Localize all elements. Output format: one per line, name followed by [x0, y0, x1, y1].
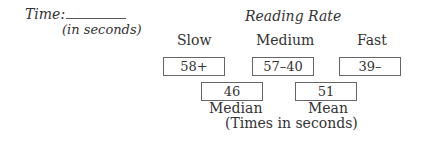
median-box: 46	[201, 82, 263, 101]
time-unit-note: (in seconds)	[62, 22, 142, 37]
fast-label: Fast	[357, 32, 387, 48]
time-label: Time:	[25, 6, 65, 22]
median-label: Median	[209, 100, 262, 116]
time-input-line[interactable]	[66, 6, 126, 19]
slow-label: Slow	[177, 32, 211, 48]
slow-box: 58+	[163, 57, 225, 76]
mean-box: 51	[295, 82, 357, 101]
medium-box: 57–40	[252, 57, 314, 76]
reading-rate-title: Reading Rate	[245, 8, 341, 24]
times-unit-note: (Times in seconds)	[225, 115, 358, 131]
fast-box: 39–	[339, 57, 401, 76]
medium-label: Medium	[256, 32, 314, 48]
mean-label: Mean	[308, 100, 348, 116]
